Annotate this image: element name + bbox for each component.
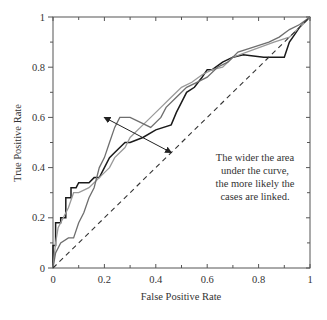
plot-border (53, 17, 310, 268)
y-tick-label: 0 (40, 263, 45, 274)
annotation-text-line: the more likely the (215, 178, 294, 189)
y-tick-label: 0.2 (32, 212, 45, 223)
double-arrow-icon (104, 117, 171, 152)
y-tick-label: 1 (40, 12, 45, 23)
y-tick-label: 0.8 (32, 62, 45, 73)
x-tick-label: 0.4 (149, 274, 163, 285)
x-tick-label: 1 (307, 274, 312, 285)
x-tick-label: 0 (50, 274, 55, 285)
annotation-text-line: cases are linked. (220, 191, 289, 202)
series-layer (53, 17, 310, 268)
roc-curve (53, 17, 310, 268)
x-tick-label: 0.2 (98, 274, 111, 285)
annotation-text-line: The wider the area (216, 152, 295, 163)
y-tick-label: 0.6 (32, 112, 45, 123)
roc-curve (53, 17, 310, 268)
y-tick-label: 0.4 (32, 162, 46, 173)
plot-frame (53, 17, 310, 268)
y-axis-title: True Positive Rate (12, 104, 23, 182)
diagonal-reference-line (53, 17, 310, 268)
x-tick-label: 0.8 (252, 274, 265, 285)
roc-curve (53, 17, 310, 268)
annotation-text-line: under the curve, (221, 165, 289, 176)
roc-chart: 00.20.40.60.81 00.20.40.60.81 The wider … (0, 0, 327, 320)
y-axis-ticks: 00.20.40.60.81 (32, 12, 310, 274)
x-tick-label: 0.6 (201, 274, 214, 285)
x-axis-title: False Positive Rate (141, 291, 222, 302)
